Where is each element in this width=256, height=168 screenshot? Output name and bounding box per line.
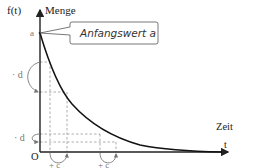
start-value-label: a: [30, 28, 34, 38]
decrement-label-upper: · d: [12, 69, 23, 80]
x-axis-quantity-label: Zeit: [216, 121, 233, 132]
origin-label: O: [31, 151, 39, 162]
decrement-arc-upper: [28, 62, 40, 92]
increment-label-left: + c: [49, 160, 60, 168]
callout: Anfangswert a: [40, 22, 158, 44]
y-axis-function-label: f(t): [7, 4, 21, 17]
increment-label-right: + c: [98, 160, 109, 168]
decrement-arc-lower: [32, 134, 40, 142]
dashed-guides: [40, 62, 116, 152]
exponential-decay-diagram: Anfangswert a f(t) Menge a Zeit t O · d …: [0, 0, 256, 168]
y-axis-quantity-label: Menge: [45, 4, 76, 16]
x-axis-variable-label: t: [224, 139, 227, 150]
decrement-label-lower: · d: [14, 132, 25, 143]
callout-text: Anfangswert a: [79, 27, 156, 39]
